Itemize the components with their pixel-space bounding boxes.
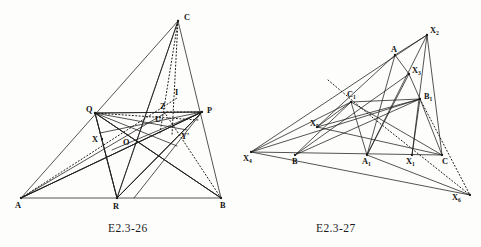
vertex-dot-X1	[411, 154, 413, 156]
vertex-label-A: A	[15, 201, 21, 210]
vertex-dot-X4	[250, 151, 252, 153]
vertex-label-A: A	[391, 45, 397, 54]
geometry-figures: ABCRPQXOUZIY'X4BA1X1CX2AX3B1C1X5X6	[0, 0, 481, 247]
segment-X4-X2	[251, 35, 427, 152]
vertex-dot-R	[116, 197, 118, 199]
segment-extra-5	[117, 21, 178, 198]
vertex-dot-B	[294, 154, 296, 156]
vertex-label-X1: X1	[406, 157, 415, 167]
segment-X1-B1	[412, 99, 420, 155]
vertex-dot-X2	[426, 34, 428, 36]
vertex-label-C: C	[184, 13, 190, 22]
vertex-dot-Q	[94, 112, 96, 114]
vertex-dot-C	[177, 20, 179, 22]
figure-E2.3-26: ABCRPQXOUZIY'	[15, 13, 226, 211]
segment-extra-1	[21, 112, 202, 198]
vertex-dot-X3	[408, 73, 410, 75]
vertex-label-U: U	[155, 115, 161, 124]
segment-B-C	[178, 21, 221, 198]
figure-page: ABCRPQXOUZIY'X4BA1X1CX2AX3B1C1X5X6 E2.3-…	[0, 0, 481, 247]
vertex-dot-X	[101, 138, 103, 140]
dotted-segment-3	[163, 110, 221, 198]
dotted-segment-2	[420, 99, 470, 195]
vertex-label-O: O	[123, 138, 130, 147]
vertex-label-Z: Z	[160, 102, 166, 111]
vertex-label-B1: B1	[424, 92, 433, 102]
figure-caption-left: E2.3-26	[108, 222, 148, 234]
vertex-label-X: X	[92, 135, 98, 144]
vertex-dot-A	[20, 197, 22, 199]
segment-X4-X6	[251, 152, 470, 195]
vertex-dot-B1	[419, 98, 421, 100]
vertex-label-X5: X5	[310, 119, 319, 129]
vertex-dot-A	[394, 54, 396, 56]
vertex-label-I: I	[175, 88, 178, 97]
vertex-label-X3: X3	[412, 66, 421, 76]
figure-E2.3-27: X4BA1X1CX2AX3B1C1X5X6	[243, 26, 471, 203]
vertex-label-Q: Q	[86, 105, 93, 114]
vertex-dot-P	[201, 111, 203, 113]
segment-A-X3	[395, 55, 409, 74]
segment-A-C	[21, 21, 178, 198]
vertex-dot-B	[220, 197, 222, 199]
segment-A1-A	[367, 55, 395, 155]
vertex-label-C: C	[442, 157, 448, 166]
vertex-label-P: P	[207, 106, 212, 115]
segment-C1-X5	[317, 102, 351, 127]
vertex-label-Yp: Y'	[181, 132, 189, 141]
figure-caption-right: E2.3-27	[316, 222, 356, 234]
vertex-label-C1: C1	[347, 90, 356, 100]
vertex-dot-X6	[469, 194, 471, 196]
vertex-dot-C	[441, 154, 443, 156]
vertex-dot-C1	[350, 101, 352, 103]
vertex-label-X4: X4	[243, 154, 252, 164]
vertex-label-B: B	[220, 201, 226, 210]
segment-A1-X6	[367, 155, 470, 195]
vertex-label-A1: A1	[362, 157, 371, 167]
segment-extra-11	[21, 112, 167, 198]
segment-extra-10	[134, 112, 202, 198]
vertex-label-X6: X6	[452, 193, 461, 203]
vertex-label-X2: X2	[430, 26, 439, 36]
dotted-segment-1	[372, 117, 470, 195]
segment-extra-4	[95, 112, 202, 113]
segment-X3-B1	[409, 74, 420, 99]
segment-B-X3	[295, 74, 409, 155]
segment-X4-C	[251, 152, 442, 155]
vertex-label-B: B	[292, 157, 298, 166]
vertex-label-R: R	[113, 202, 120, 211]
vertex-dot-A1	[366, 154, 368, 156]
